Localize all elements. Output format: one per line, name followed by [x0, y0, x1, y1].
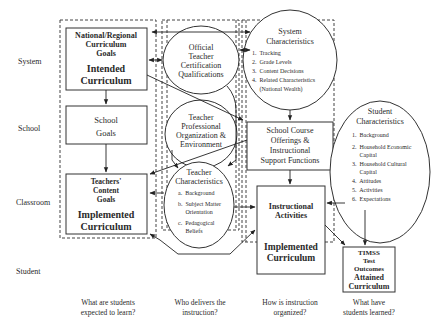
svg-text:Characteristics: Characteristics [175, 177, 223, 186]
level-label-school: School [18, 124, 41, 133]
node-national-goals: National/Regional Curriculum Goals Inten… [66, 28, 147, 90]
svg-text:Characteristics: Characteristics [356, 117, 404, 126]
svg-text:2. Household Economic: 2. Household Economic [352, 144, 412, 150]
node-teacher-characteristics: Teacher Characteristics a. Background b.… [164, 162, 234, 248]
svg-text:Teacher: Teacher [188, 113, 214, 122]
svg-text:Curriculum: Curriculum [349, 282, 390, 291]
node-official-certification: Official Teacher Certification Qualifica… [163, 26, 239, 94]
svg-text:3. Content Decisions: 3. Content Decisions [252, 68, 304, 74]
svg-text:Teacher: Teacher [188, 52, 214, 61]
svg-text:expected to learn?: expected to learn? [81, 308, 136, 317]
svg-text:Attained: Attained [354, 273, 384, 282]
svg-text:Offerings &: Offerings & [271, 136, 311, 145]
node-student-characteristics: Student Characteristics 1. Background 2.… [330, 101, 430, 243]
svg-text:Activities: Activities [275, 211, 307, 220]
svg-text:Goals: Goals [96, 128, 116, 138]
svg-text:How is instruction: How is instruction [262, 298, 318, 307]
svg-text:organized?: organized? [274, 308, 307, 317]
level-labels: System School Classroom Student [16, 57, 51, 276]
svg-text:instruction?: instruction? [182, 308, 218, 317]
svg-text:Implemented: Implemented [78, 209, 135, 220]
svg-text:Capital: Capital [352, 152, 377, 158]
svg-text:Official: Official [189, 43, 215, 52]
svg-text:Curriculum: Curriculum [80, 75, 132, 86]
svg-text:National/Regional: National/Regional [75, 31, 138, 40]
svg-text:Content: Content [93, 186, 119, 195]
svg-text:System: System [278, 27, 302, 36]
svg-text:Who delivers the: Who delivers the [174, 298, 226, 307]
node-school-goals: School Goals [66, 106, 147, 144]
node-instructional-activities: Instructional Activities Implemented Cur… [257, 186, 325, 274]
svg-text:Beliefs: Beliefs [178, 228, 203, 234]
svg-text:Instructional: Instructional [270, 146, 311, 155]
svg-text:3. Household Cultural: 3. Household Cultural [352, 161, 407, 167]
node-system-characteristics: System Characteristics 1. Tracking 2. Gr… [243, 10, 337, 110]
svg-text:Instructional: Instructional [269, 202, 314, 211]
svg-text:Capital: Capital [352, 169, 377, 175]
node-timss-outcomes: TIMSS Test Outcomes Attained Curriculum [343, 247, 395, 292]
svg-text:School Course: School Course [267, 126, 314, 135]
svg-text:Goals: Goals [97, 195, 115, 204]
level-label-system: System [18, 57, 42, 66]
svg-text:5. Activities: 5. Activities [352, 187, 383, 193]
svg-text:What are students: What are students [81, 298, 135, 307]
svg-text:2. Grade Levels: 2. Grade Levels [252, 59, 292, 65]
svg-text:Professional: Professional [181, 122, 221, 131]
svg-text:a. Background: a. Background [178, 190, 215, 196]
svg-text:School: School [94, 115, 118, 125]
svg-text:TIMSS: TIMSS [358, 249, 380, 257]
svg-text:Curriculum: Curriculum [267, 253, 316, 263]
svg-text:b. Subject Matter: b. Subject Matter [178, 201, 221, 207]
svg-text:(National Wealth): (National Wealth) [252, 86, 302, 93]
svg-text:1. Background: 1. Background [352, 132, 389, 138]
svg-text:Goals: Goals [96, 49, 116, 58]
svg-text:Characteristics: Characteristics [266, 37, 314, 46]
svg-text:6. Expectations: 6. Expectations [352, 196, 391, 202]
svg-text:Outcomes: Outcomes [354, 265, 384, 273]
svg-text:Curriculum: Curriculum [80, 221, 132, 232]
svg-text:c. Pedagogical: c. Pedagogical [178, 220, 215, 226]
svg-text:Curriculum: Curriculum [86, 40, 127, 49]
node-teacher-content-goals: Teachers' Content Goals Implemented Curr… [66, 174, 147, 234]
svg-text:Teacher: Teacher [186, 168, 212, 177]
svg-text:Test: Test [363, 257, 376, 265]
level-label-classroom: Classroom [16, 198, 51, 207]
svg-text:Qualifications: Qualifications [178, 70, 223, 79]
svg-text:Orientation: Orientation [178, 209, 213, 215]
svg-text:4. Related Characteristics: 4. Related Characteristics [252, 77, 316, 83]
svg-text:Environment: Environment [180, 140, 223, 149]
svg-text:students learned?: students learned? [343, 308, 396, 317]
svg-text:Intended: Intended [87, 63, 126, 74]
svg-text:Organization &: Organization & [176, 131, 227, 140]
svg-text:Implemented: Implemented [264, 242, 319, 252]
level-label-student: Student [16, 267, 41, 276]
node-teacher-professional: Teacher Professional Organization & Envi… [165, 100, 237, 168]
svg-text:Student: Student [368, 107, 393, 116]
column-questions: What are students expected to learn? Who… [81, 298, 396, 317]
svg-text:Teachers': Teachers' [91, 177, 122, 186]
svg-text:What have: What have [353, 298, 386, 307]
node-school-course-offerings: School Course Offerings & Instructional … [247, 122, 333, 170]
svg-text:Certification: Certification [181, 61, 221, 70]
svg-text:Support Functions: Support Functions [261, 156, 320, 165]
timss-conceptual-framework-diagram: System School Classroom Student National… [0, 0, 446, 334]
svg-text:1. Tracking: 1. Tracking [252, 50, 281, 56]
svg-text:4. Attitudes: 4. Attitudes [352, 178, 382, 184]
